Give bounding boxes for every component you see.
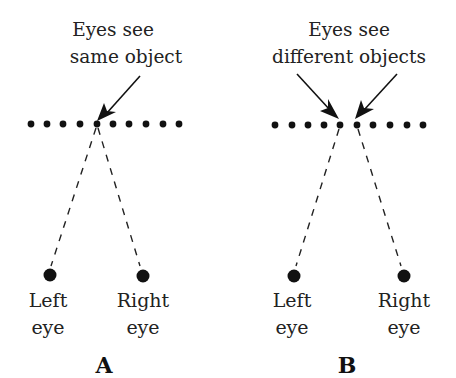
panel-a-left-eye-icon [44,269,57,282]
panel-b-left-arrow-icon [297,74,339,119]
panel-b-left-eye-label-1: Left [273,289,312,311]
stereo-vision-diagram: Eyes see same object Left [0,0,456,378]
panel-b-right-eye-icon [398,270,411,283]
panel-b-left-eye-label-2: eye [275,316,308,338]
panel-a-sight-lines [51,128,140,266]
panel-b-caption-line1: Eyes see [308,19,390,40]
panel-b-right-eye-label-1: Right [378,289,431,311]
panel-a-right-eye-label-2: eye [126,316,159,338]
panel-b-object-row [272,122,427,129]
panel-b-right-eye-label-2: eye [387,316,420,338]
panel-a: Eyes see same object Left [28,19,183,378]
panel-b-caption-line2: different objects [272,46,426,67]
panel-a-arrow-icon [97,76,140,121]
panel-b-right-arrow-icon [355,74,397,119]
panel-b-label: B [338,352,357,378]
panel-b-left-eye-icon [288,270,301,283]
panel-a-label: A [94,352,113,378]
panel-b-sight-lines [296,129,401,266]
panel-a-right-eye-icon [137,270,150,283]
panel-a-caption-line2: same object [70,46,183,67]
panel-a-object-row [28,121,183,128]
panel-a-left-eye-label-1: Left [29,289,68,311]
panel-b: Eyes see different objects [272,19,431,378]
panel-a-caption-line1: Eyes see [72,19,154,40]
panel-a-right-eye-label-1: Right [117,289,170,311]
panel-a-left-eye-label-2: eye [31,316,64,338]
